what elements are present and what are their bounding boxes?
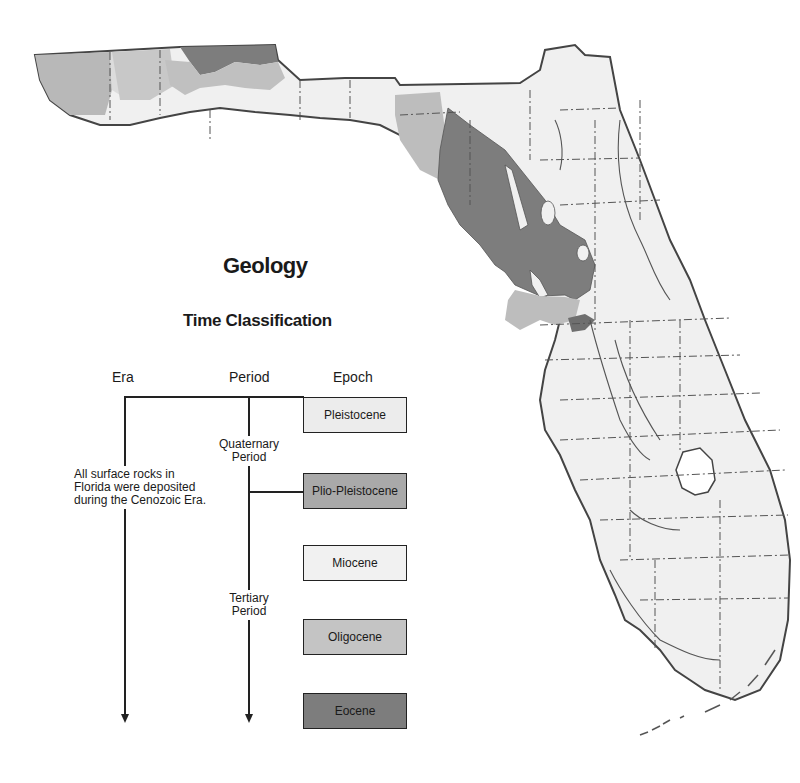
quaternary-period-label: Quaternary Period (216, 436, 282, 466)
panhandle-west-region (35, 52, 112, 115)
era-line (124, 396, 126, 716)
epoch-miocene: Miocene (303, 545, 407, 581)
epoch-pleistocene: Pleistocene (303, 397, 407, 433)
period-arrow-icon (245, 714, 253, 723)
epoch-eocene: Eocene (303, 693, 407, 729)
tertiary-period-label: Tertiary Period (222, 590, 276, 620)
florida-geology-map (0, 0, 800, 783)
era-column-header: Era (112, 369, 134, 385)
oligocene-bigbend-region (395, 92, 445, 180)
timeline-top-line (124, 396, 304, 398)
epoch-plio-pleistocene: Plio-Pleistocene (303, 473, 407, 509)
time-classification-heading: Time Classification (183, 311, 332, 331)
period-column-header: Period (229, 369, 269, 385)
map-title: Geology (223, 253, 308, 279)
cenozoic-era-note: All surface rocks in Florida were deposi… (74, 466, 206, 509)
epoch-oligocene: Oligocene (303, 619, 407, 655)
epoch-column-header: Epoch (333, 369, 373, 385)
plio-branch-line (248, 491, 304, 493)
era-arrow-icon (121, 714, 129, 723)
